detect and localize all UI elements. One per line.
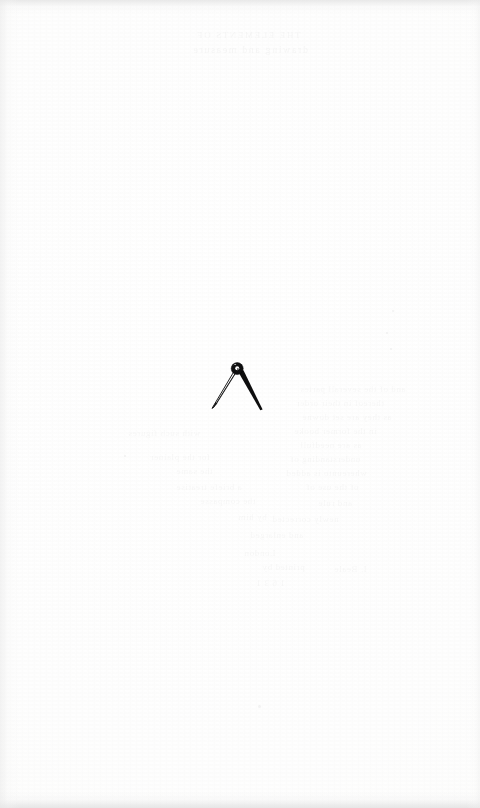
scan-edge-right — [466, 0, 480, 808]
compass-hinge-bore-shadow — [237, 368, 239, 370]
printer-device-compass — [195, 352, 279, 416]
compass-right-leg — [238, 370, 262, 411]
compass-icon — [195, 352, 279, 416]
compass-left-leg-inner-line — [216, 373, 236, 405]
scanned-page: THE ELEMENTS OFdrawing and measureand of… — [0, 0, 480, 808]
scan-edge-top — [0, 0, 480, 14]
scan-edge-left — [0, 0, 20, 808]
compass-hinge-bore — [235, 366, 239, 370]
scan-edge-bottom — [0, 792, 480, 808]
